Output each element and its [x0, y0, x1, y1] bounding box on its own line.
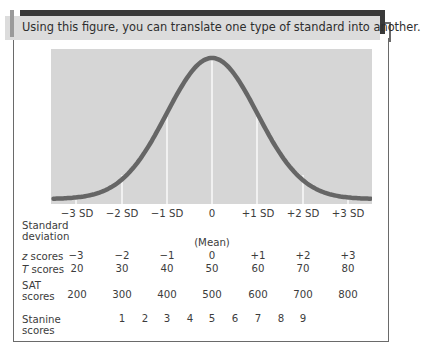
stanine-value: 7	[255, 313, 261, 324]
z-value: −2	[114, 250, 129, 261]
z-value: +1	[250, 250, 265, 261]
tick-label: −2 SD	[106, 208, 139, 219]
stanine-row-label: Stanine scores	[22, 314, 61, 336]
stanine-value: 1	[119, 313, 125, 324]
t-value: 30	[116, 263, 129, 274]
z-value: −1	[159, 250, 174, 261]
normal-curve-chart	[51, 49, 372, 204]
stanine-value: 3	[164, 313, 170, 324]
sat-value: 500	[202, 289, 221, 300]
mean-label: (Mean)	[194, 237, 230, 248]
sat-value: 300	[112, 289, 131, 300]
sat-value: 200	[67, 289, 86, 300]
stanine-value: 5	[209, 313, 215, 324]
stanine-value: 8	[278, 313, 284, 324]
t-value: 40	[161, 263, 174, 274]
sat-value: 800	[338, 289, 357, 300]
tick-label: +2 SD	[287, 208, 320, 219]
t-value: 60	[252, 263, 265, 274]
tick-label: −3 SD	[61, 208, 94, 219]
z-value: 0	[209, 250, 215, 261]
t-value: 20	[71, 263, 84, 274]
sat-row-label: SAT scores	[22, 280, 55, 302]
tick-label: 0	[209, 208, 215, 219]
sat-value: 400	[157, 289, 176, 300]
z-row-label: z scores	[22, 251, 63, 262]
tick-label: −1 SD	[151, 208, 184, 219]
stanine-value: 6	[232, 313, 238, 324]
bell-curve-plot	[51, 49, 372, 204]
tick-label: +1 SD	[242, 208, 275, 219]
z-value: +3	[340, 250, 355, 261]
z-value: −3	[68, 250, 83, 261]
z-value: +2	[295, 250, 310, 261]
tick-label: +3 SD	[332, 208, 365, 219]
t-value: 80	[342, 263, 355, 274]
stanine-value: 9	[300, 313, 306, 324]
t-value: 70	[297, 263, 310, 274]
t-value: 50	[206, 263, 219, 274]
stanine-value: 2	[142, 313, 148, 324]
caption-accent	[10, 10, 14, 37]
stanine-value: 4	[187, 313, 193, 324]
sat-value: 700	[293, 289, 312, 300]
t-row-label: T scores	[22, 264, 64, 275]
sd-row-label: Standard deviation	[22, 220, 69, 242]
figure-caption: Using this figure, you can translate one…	[22, 20, 421, 34]
sat-value: 600	[248, 289, 267, 300]
